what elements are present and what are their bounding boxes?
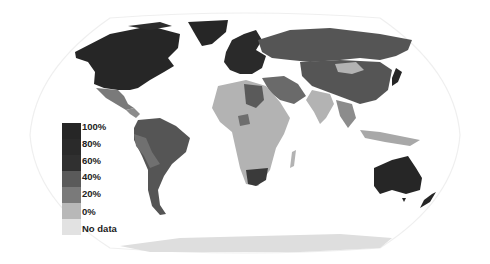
legend-swatch-100 [62,123,81,139]
region-canada-islands [128,22,172,30]
legend-swatch-40 [62,171,81,187]
legend-label-60: 60% [82,156,101,166]
region-new-zealand [420,192,436,208]
legend-label-40: 40% [82,172,101,182]
legend-swatch-nodata [62,219,81,235]
region-antarctica [120,234,392,252]
region-se-asia [336,100,356,128]
region-europe [224,30,266,74]
region-nigeria [238,114,250,126]
legend-swatch-0 [62,203,81,219]
region-south-america [134,118,190,215]
region-tasmania [402,198,406,202]
legend-label-0: 0% [82,207,96,217]
region-greenland [188,20,228,46]
region-indonesia [360,130,420,146]
region-central-america [126,108,140,118]
region-australia [374,156,422,194]
region-japan [392,68,402,86]
legend-label-100: 100% [82,122,106,132]
region-india [306,90,334,124]
legend-swatch-80 [62,139,81,155]
region-madagascar [290,150,296,168]
region-north-america [75,26,180,90]
legend-label-nodata: No data [82,224,117,234]
region-russia [258,28,412,62]
region-south-africa [246,168,268,186]
legend-label-20: 20% [82,189,101,199]
legend-swatch-20 [62,187,81,203]
region-mexico [96,88,134,110]
legend-swatch-60 [62,155,81,171]
legend-label-80: 80% [82,139,101,149]
